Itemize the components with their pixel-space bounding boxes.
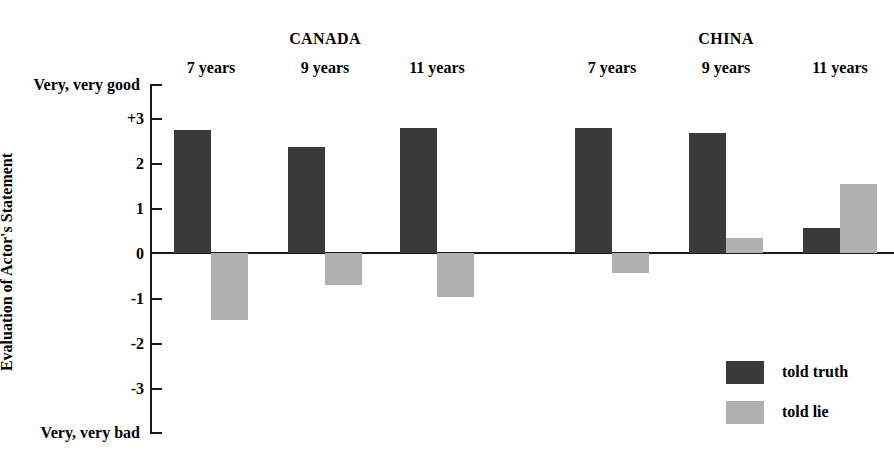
y-tick-mark-2 [151, 163, 162, 165]
category-label-canada-9: 9 years [301, 59, 349, 77]
y-tick-mark-plus3 [151, 118, 162, 120]
y-tick-mark-minus2 [151, 343, 162, 345]
bar-china-9-years-told-lie [726, 238, 763, 253]
axis-caption-bottom: Very, very bad [0, 424, 140, 442]
bar-china-11-years-told-truth [803, 228, 840, 253]
category-label-canada-11: 11 years [409, 59, 465, 77]
y-tick-mark-1 [151, 208, 162, 210]
legend-item-told-lie: told lie [726, 392, 848, 432]
y-axis-spine [150, 84, 152, 434]
bar-china-11-years-told-lie [840, 184, 877, 253]
y-tick-label-2: 2 [104, 155, 144, 173]
zero-baseline [150, 252, 894, 254]
bar-china-7-years-told-truth [575, 128, 612, 253]
axis-caption-top: Very, very good [0, 76, 140, 94]
category-label-canada-7: 7 years [187, 59, 235, 77]
y-tick-label-minus3: -3 [104, 380, 144, 398]
group-label-canada: CANADA [289, 30, 361, 48]
y-tick-label-1: 1 [104, 200, 144, 218]
y-axis-bottom-serif [150, 432, 162, 434]
y-tick-mark-minus3 [151, 388, 162, 390]
legend-label-told-truth: told truth [782, 363, 848, 381]
group-label-china: CHINA [698, 30, 753, 48]
bar-canada-9-years-told-truth [288, 147, 325, 253]
legend-swatch-told-truth [726, 361, 764, 384]
bar-canada-7-years-told-lie [211, 253, 248, 320]
bar-chart-figure: CANADA CHINA 7 years 9 years 11 years 7 … [0, 0, 894, 457]
chart-legend: told truth told lie [726, 352, 848, 432]
y-tick-label-minus2: -2 [104, 335, 144, 353]
y-axis-title: Evaluation of Actor's Statement [0, 153, 16, 371]
category-label-china-7: 7 years [588, 59, 636, 77]
bar-canada-11-years-told-lie [437, 253, 474, 297]
y-axis-top-serif [150, 84, 162, 86]
legend-label-told-lie: told lie [782, 403, 829, 421]
bar-canada-11-years-told-truth [400, 128, 437, 253]
category-label-china-9: 9 years [702, 59, 750, 77]
y-tick-label-plus3: +3 [104, 110, 144, 128]
category-label-china-11: 11 years [812, 59, 868, 77]
y-tick-mark-minus1 [151, 298, 162, 300]
legend-swatch-told-lie [726, 401, 764, 424]
bar-canada-7-years-told-truth [174, 130, 211, 253]
bar-canada-9-years-told-lie [325, 253, 362, 285]
bar-china-9-years-told-truth [689, 133, 726, 253]
bar-china-7-years-told-lie [612, 253, 649, 273]
y-tick-label-0: 0 [104, 245, 144, 263]
y-tick-label-minus1: -1 [104, 290, 144, 308]
legend-item-told-truth: told truth [726, 352, 848, 392]
